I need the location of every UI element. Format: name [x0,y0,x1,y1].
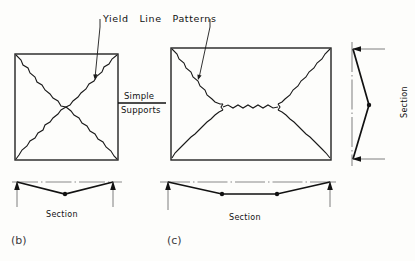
simple-supports-label-top: Simple [124,92,154,101]
panel-b-section-node [63,192,67,196]
panel-c-section-node-right [275,192,279,196]
panel-b-yield-line-bl [16,107,66,159]
figure-title: Yield Line Patterns [103,14,216,24]
simple-supports-label-bottom: Supports [121,106,161,115]
panel-c-yield-line-br [278,110,330,158]
side-section-label: Section [401,86,409,118]
panel-b-plan [15,54,118,160]
panel-c-section-deflection [168,182,330,194]
title-leader-right-arrow [199,27,210,78]
figure-drawing-canvas [0,0,415,261]
side-section [352,42,385,166]
panel-b-section [12,181,122,207]
title-leader-left-arrow [95,27,100,78]
panel-c-yield-line-tl [172,49,223,104]
panel-b-yield-line-tl [16,55,66,107]
panel-c-section [160,181,336,210]
panel-c-yield-line-bl [172,110,223,158]
panel-c-node-left-stub [221,104,223,110]
figure-root: Yield Line Patterns Simple Supports Sect… [0,0,415,261]
panel-c-section-node-left [220,192,224,196]
title-leader-lines [93,19,210,80]
side-section-node [367,103,371,107]
panel-c-yield-line-tr [278,49,330,104]
panel-c-section-label: Section [229,214,261,222]
panel-b-caption: (b) [11,235,27,246]
title-leader-right-arrowhead [197,74,201,80]
panel-c-plan-outline [171,48,331,160]
panel-b-section-label: Section [46,211,78,219]
panel-c-caption: (c) [167,235,182,246]
panel-c-plan [171,48,331,160]
panel-c-node-right-stub [278,104,280,110]
panel-c-yield-ridge-line [223,105,278,108]
panel-b-yield-line-br [66,107,117,159]
side-section-deflection [353,49,369,159]
panel-b-yield-line-tr [66,55,117,107]
